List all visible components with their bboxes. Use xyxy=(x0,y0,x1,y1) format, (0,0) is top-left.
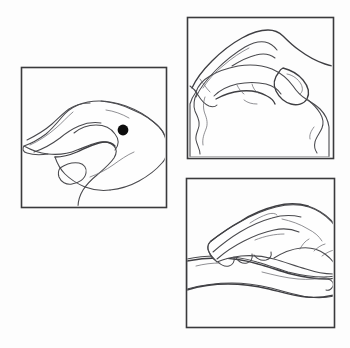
illustration-figure: Acupressure point on the hand: location … xyxy=(0,0,350,348)
acupressure-point-dot xyxy=(118,125,129,136)
illustration-canvas xyxy=(0,0,350,348)
panel-3-group xyxy=(187,179,335,328)
panel-2-group xyxy=(188,18,334,159)
panel-1-group xyxy=(22,68,167,208)
